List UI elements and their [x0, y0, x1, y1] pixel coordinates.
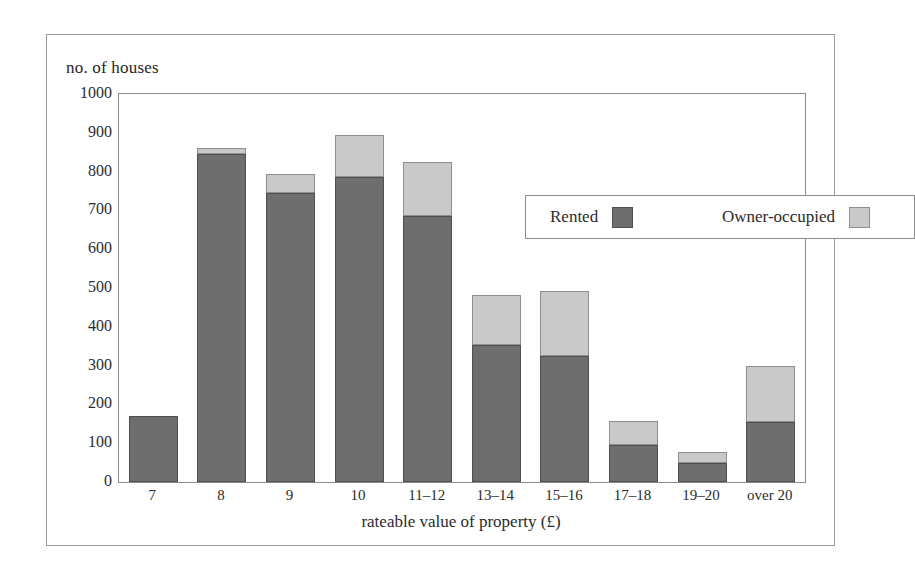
- legend-entry-rented: Rented: [550, 196, 633, 238]
- bar-group[interactable]: [197, 148, 246, 482]
- bars-layer: [119, 94, 805, 482]
- y-axis-tick-400: 400: [62, 317, 112, 335]
- x-axis-title: rateable value of property (£): [118, 512, 804, 532]
- y-axis-tick-100: 100: [62, 433, 112, 451]
- legend-entry-owner-occupied: Owner-occupied: [722, 196, 870, 238]
- x-axis-tick-7: 7: [118, 487, 187, 504]
- x-axis-tick-9: 9: [255, 487, 324, 504]
- bar-segment-rented[interactable]: [609, 445, 658, 482]
- bar-segment-owner-occupied[interactable]: [403, 162, 452, 216]
- bar-group[interactable]: [403, 162, 452, 482]
- y-axis-tick-labels: 10009008007006005004003002001000: [58, 93, 112, 481]
- y-axis-tick-700: 700: [62, 200, 112, 218]
- bar-group[interactable]: [746, 366, 795, 482]
- y-axis-tick-0: 0: [62, 472, 112, 490]
- x-axis-tick-8: 8: [187, 487, 256, 504]
- y-axis-tick-800: 800: [62, 162, 112, 180]
- legend-label-rented: Rented: [550, 207, 598, 227]
- bar-segment-owner-occupied[interactable]: [678, 452, 727, 464]
- x-axis-tick-10: 10: [324, 487, 393, 504]
- bar-segment-owner-occupied[interactable]: [472, 295, 521, 345]
- x-axis-tick-15–16: 15–16: [530, 487, 599, 504]
- bar-group[interactable]: [609, 421, 658, 482]
- bar-segment-owner-occupied[interactable]: [266, 174, 315, 193]
- bar-segment-rented[interactable]: [403, 216, 452, 482]
- chart-legend: Rented Owner-occupied: [525, 195, 915, 239]
- bar-segment-rented[interactable]: [129, 416, 178, 482]
- bar-segment-rented[interactable]: [197, 154, 246, 482]
- bar-segment-owner-occupied[interactable]: [746, 366, 795, 421]
- y-axis-tick-900: 900: [62, 123, 112, 141]
- plot-area: Rented Owner-occupied: [118, 93, 806, 483]
- y-axis-tick-300: 300: [62, 356, 112, 374]
- light-gray-swatch-icon: [849, 207, 870, 228]
- y-axis-tick-600: 600: [62, 239, 112, 257]
- bar-segment-rented[interactable]: [746, 422, 795, 482]
- bar-segment-owner-occupied[interactable]: [335, 135, 384, 178]
- bar-segment-rented[interactable]: [335, 177, 384, 482]
- y-axis-tick-500: 500: [62, 278, 112, 296]
- legend-label-owner-occupied: Owner-occupied: [722, 207, 835, 227]
- x-axis-tick-19–20: 19–20: [667, 487, 736, 504]
- bar-segment-owner-occupied[interactable]: [197, 148, 246, 154]
- bar-group[interactable]: [472, 295, 521, 482]
- x-axis-tick-over-20: over 20: [735, 487, 804, 504]
- x-axis-tick-13–14: 13–14: [461, 487, 530, 504]
- bar-segment-owner-occupied[interactable]: [540, 291, 589, 356]
- x-axis-tick-labels: 7891011–1213–1415–1617–1819–20over 20: [118, 487, 804, 511]
- x-axis-tick-17–18: 17–18: [598, 487, 667, 504]
- bar-group[interactable]: [129, 416, 178, 482]
- bar-segment-rented[interactable]: [678, 463, 727, 482]
- y-axis-tick-200: 200: [62, 394, 112, 412]
- bar-segment-rented[interactable]: [472, 345, 521, 482]
- dark-gray-swatch-icon: [612, 207, 633, 228]
- bar-group[interactable]: [540, 291, 589, 482]
- y-axis-title: no. of houses: [66, 58, 159, 78]
- bar-group[interactable]: [678, 452, 727, 482]
- bar-segment-owner-occupied[interactable]: [609, 421, 658, 445]
- bar-group[interactable]: [335, 135, 384, 482]
- bar-segment-rented[interactable]: [266, 193, 315, 482]
- x-axis-tick-11–12: 11–12: [392, 487, 461, 504]
- y-axis-tick-1000: 1000: [62, 84, 112, 102]
- bar-segment-rented[interactable]: [540, 356, 589, 482]
- bar-group[interactable]: [266, 174, 315, 482]
